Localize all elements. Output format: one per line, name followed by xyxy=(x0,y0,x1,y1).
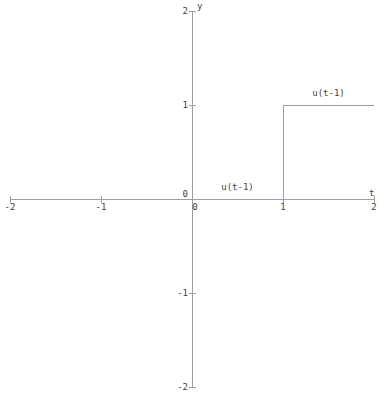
y-tick-label: 0 xyxy=(183,189,188,199)
step-function-figure: -2-1012 -2-1012 t y u(t-1)u(t-1) xyxy=(0,0,385,397)
x-axis-tick-labels: -2-1012 xyxy=(5,202,377,212)
y-tick-label: 2 xyxy=(183,6,188,16)
x-tick-label: 1 xyxy=(280,202,285,212)
curve-label: u(t-1) xyxy=(312,88,345,98)
y-tick-label: -1 xyxy=(177,288,188,298)
x-tick-label: -2 xyxy=(5,202,16,212)
plot-canvas: -2-1012 -2-1012 t y u(t-1)u(t-1) xyxy=(0,0,385,397)
curve-label: u(t-1) xyxy=(221,182,254,192)
x-tick-label: 0 xyxy=(192,202,197,212)
x-tick-label: 2 xyxy=(371,202,376,212)
x-tick-label: -1 xyxy=(96,202,107,212)
x-axis-label: t xyxy=(369,188,374,198)
y-tick-label: 1 xyxy=(183,100,188,110)
y-tick-label: -2 xyxy=(177,382,188,392)
y-axis-label: y xyxy=(197,1,203,11)
